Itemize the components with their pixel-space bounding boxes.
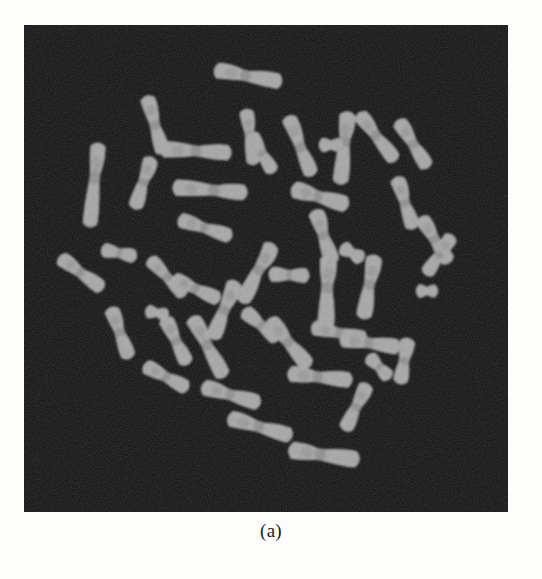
chromosome-spread-image bbox=[24, 25, 508, 512]
figure-caption: (a) bbox=[0, 520, 542, 542]
figure-root: (a) bbox=[0, 0, 542, 579]
micrograph-panel bbox=[24, 25, 508, 512]
